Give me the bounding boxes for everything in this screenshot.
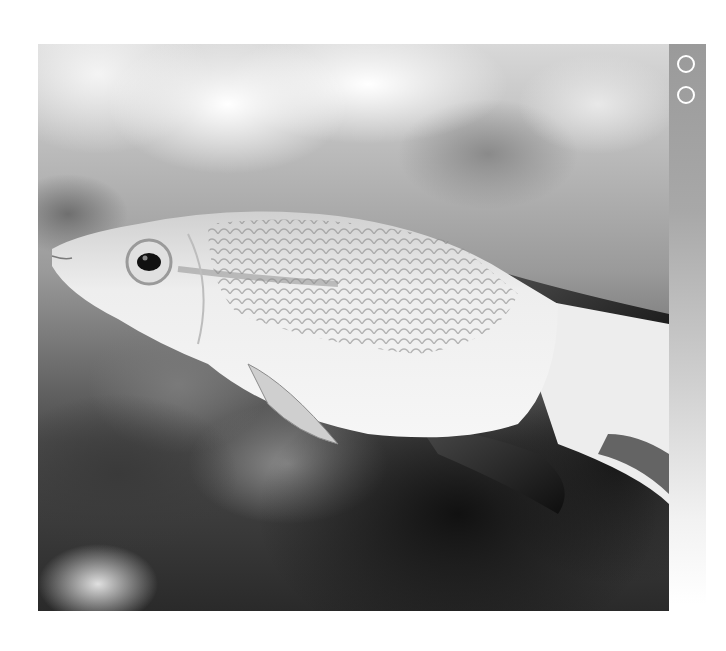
circle-outline-icon <box>677 86 695 104</box>
anal-fin <box>418 424 565 514</box>
fish-photo <box>38 44 669 611</box>
page-side-tab <box>669 44 706 604</box>
fish-illustration <box>38 44 669 611</box>
circle-outline-icon <box>677 55 695 73</box>
